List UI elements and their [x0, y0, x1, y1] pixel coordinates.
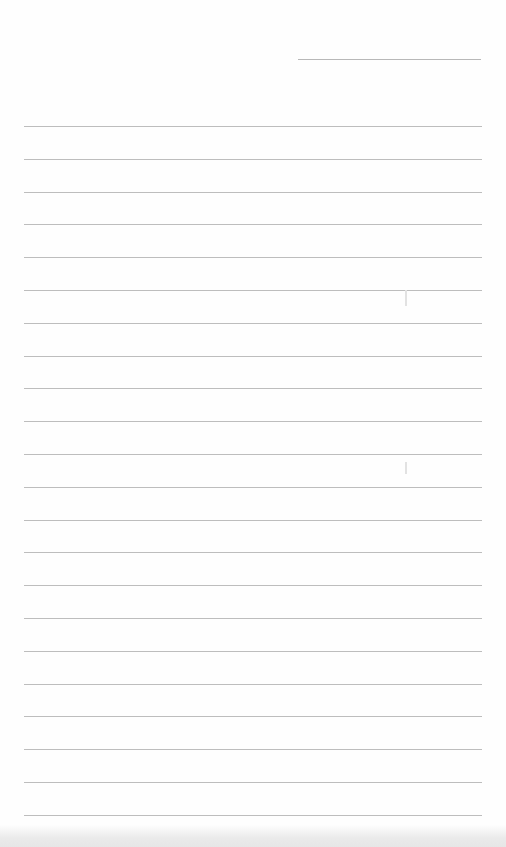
ruled-line: [24, 454, 482, 455]
ruled-line: [24, 290, 482, 291]
ruled-line: [24, 388, 482, 389]
ruled-line: [24, 749, 482, 750]
ruled-line: [24, 585, 482, 586]
ruled-line: [24, 356, 482, 357]
ruled-line: [24, 684, 482, 685]
ruled-line: [24, 159, 482, 160]
ruled-line: [24, 323, 482, 324]
ruled-line: [24, 651, 482, 652]
ruled-line: [24, 421, 482, 422]
ruled-line: [24, 716, 482, 717]
ruled-line: [24, 782, 482, 783]
ruled-line: [24, 224, 482, 225]
page-text: [0, 0, 1, 1]
ruled-line: [24, 487, 482, 488]
scan-artifact: [405, 290, 407, 306]
ruled-line: [24, 618, 482, 619]
ruled-line: [24, 815, 482, 816]
ruled-line: [24, 552, 482, 553]
lined-paper-page: [0, 0, 506, 847]
ruled-line: [24, 192, 482, 193]
ruled-line: [24, 520, 482, 521]
scan-edge-band: [0, 825, 506, 847]
scan-artifact: [405, 462, 407, 474]
ruled-line: [24, 257, 482, 258]
header-name-line: [298, 59, 481, 60]
ruled-line: [24, 126, 482, 127]
